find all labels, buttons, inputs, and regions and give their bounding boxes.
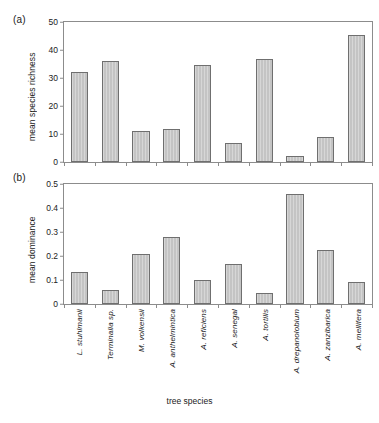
x-axis-category-label: A. drepanolobium bbox=[291, 309, 300, 373]
panel-b-y-tick-label: 0.2 bbox=[46, 252, 64, 261]
bar bbox=[132, 254, 149, 304]
bar bbox=[225, 264, 242, 304]
x-label-slot: Terminalia sp. bbox=[94, 307, 125, 385]
bar-slot bbox=[126, 184, 157, 304]
panel-b-y-axis-title: mean dominance bbox=[27, 196, 37, 304]
bar bbox=[163, 129, 180, 162]
x-label-slot: L. stuhlmanii bbox=[63, 307, 94, 385]
x-axis-category-label: M. volkensii bbox=[136, 309, 145, 352]
x-axis-category-label: L. stuhlmanii bbox=[74, 309, 83, 355]
bar bbox=[256, 59, 273, 162]
panel-b-plot-area: 00.10.20.30.40.5 bbox=[63, 183, 373, 305]
x-axis-category-label: A. senegal bbox=[229, 309, 238, 348]
bar bbox=[102, 61, 119, 162]
panel-b-letter: (b) bbox=[13, 172, 26, 183]
panel-a-y-axis-title: mean species richness bbox=[27, 33, 37, 161]
bar-slot bbox=[187, 184, 218, 304]
bar bbox=[317, 137, 334, 162]
x-label-slot: A. reficiens bbox=[187, 307, 218, 385]
panel-a-bars bbox=[64, 22, 372, 162]
figure-container: (a) (b) mean species richness mean domin… bbox=[0, 0, 379, 423]
x-label-slot: A. mellifera bbox=[342, 307, 373, 385]
bar-slot bbox=[95, 184, 126, 304]
x-axis-category-label: A. reficiens bbox=[198, 309, 207, 350]
panel-a-x-ticks bbox=[64, 162, 372, 166]
bar bbox=[132, 131, 149, 162]
x-axis-title: tree species bbox=[0, 396, 379, 406]
bar bbox=[71, 72, 88, 162]
bar-slot bbox=[249, 184, 280, 304]
bar-slot bbox=[341, 22, 372, 162]
x-label-slot: A. drepanolobium bbox=[280, 307, 311, 385]
x-label-slot: A. senegal bbox=[218, 307, 249, 385]
bar bbox=[317, 250, 334, 304]
bar bbox=[163, 237, 180, 304]
bar bbox=[71, 272, 88, 304]
panel-b-y-tick-label: 0.1 bbox=[46, 276, 64, 285]
bar bbox=[225, 143, 242, 162]
panel-a-y-tick-label: 50 bbox=[49, 18, 64, 27]
bar-slot bbox=[156, 184, 187, 304]
x-label-slot: A. anthelmintica bbox=[156, 307, 187, 385]
x-axis-category-label: Terminalia sp. bbox=[105, 309, 114, 360]
panel-a-letter: (a) bbox=[13, 14, 26, 25]
bar-slot bbox=[310, 22, 341, 162]
panel-a-y-tick-label: 0 bbox=[53, 158, 64, 167]
bar bbox=[102, 290, 119, 304]
x-axis-category-label: A. tortilis bbox=[260, 309, 269, 341]
panel-b-bars bbox=[64, 184, 372, 304]
x-label-slot: A. zanzibarica bbox=[311, 307, 342, 385]
x-axis-category-labels: L. stuhlmaniiTerminalia sp.M. volkensiiA… bbox=[63, 307, 373, 385]
bar-slot bbox=[64, 184, 95, 304]
bar-slot bbox=[64, 22, 95, 162]
x-label-slot: M. volkensii bbox=[125, 307, 156, 385]
bar-slot bbox=[218, 184, 249, 304]
bar bbox=[348, 282, 365, 304]
bar-slot bbox=[280, 22, 311, 162]
panel-a-y-tick-label: 30 bbox=[49, 74, 64, 83]
panel-a-y-tick-label: 20 bbox=[49, 102, 64, 111]
bar bbox=[194, 280, 211, 304]
panel-b-y-tick-label: 0.4 bbox=[46, 204, 64, 213]
bar-slot bbox=[156, 22, 187, 162]
bar-slot bbox=[341, 184, 372, 304]
panel-b-y-tick-label: 0.3 bbox=[46, 228, 64, 237]
x-axis-category-label: A. mellifera bbox=[353, 309, 362, 350]
bar-slot bbox=[95, 22, 126, 162]
bar-slot bbox=[280, 184, 311, 304]
bar-slot bbox=[310, 184, 341, 304]
panel-a-y-tick-label: 40 bbox=[49, 46, 64, 55]
bar-slot bbox=[187, 22, 218, 162]
bar bbox=[256, 293, 273, 304]
x-axis-category-label: A. anthelmintica bbox=[167, 309, 176, 368]
bar-slot bbox=[126, 22, 157, 162]
panel-a-y-tick-label: 10 bbox=[49, 130, 64, 139]
panel-a-plot-area: 01020304050 bbox=[63, 21, 373, 163]
bar-slot bbox=[218, 22, 249, 162]
bar bbox=[286, 194, 303, 304]
x-label-slot: A. tortilis bbox=[249, 307, 280, 385]
bar bbox=[348, 35, 365, 162]
bar-slot bbox=[249, 22, 280, 162]
x-axis-category-label: A. zanzibarica bbox=[322, 309, 331, 361]
panel-b-y-tick-label: 0.5 bbox=[46, 180, 64, 189]
bar bbox=[194, 65, 211, 162]
